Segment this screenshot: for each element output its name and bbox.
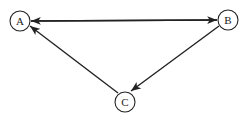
graph-diagram: A B C bbox=[0, 0, 246, 122]
edge-b-to-a bbox=[31, 20, 217, 21]
node-a: A bbox=[10, 11, 30, 31]
node-c-label: C bbox=[121, 96, 128, 108]
node-a-label: A bbox=[16, 15, 24, 27]
node-b-label: B bbox=[224, 14, 231, 26]
node-c: C bbox=[115, 92, 135, 112]
node-b: B bbox=[218, 10, 238, 30]
edge-b-to-c bbox=[131, 26, 219, 91]
edge-c-to-a bbox=[30, 26, 118, 93]
